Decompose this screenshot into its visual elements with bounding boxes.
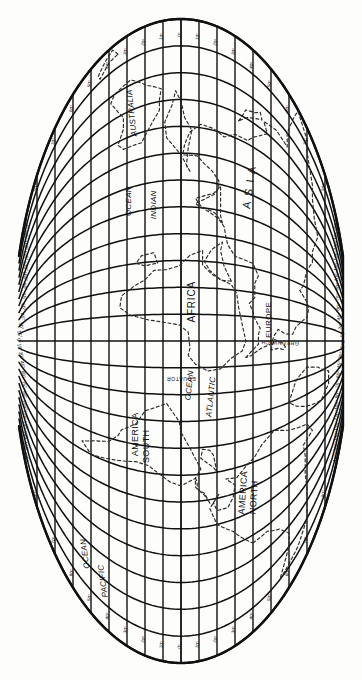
indian-ocean-label-2: OCEAN bbox=[124, 186, 133, 216]
south-america-label-2: AMERICA bbox=[130, 412, 140, 456]
equator-label: EQUATOR bbox=[166, 376, 195, 382]
world-map-figure: 180°180°165°165°150°150°135°135°120°120°… bbox=[0, 0, 362, 680]
indian-ocean-label-1: INDIAN bbox=[149, 190, 158, 219]
europe-label: EUROPE bbox=[264, 302, 273, 338]
map-canvas: 180°180°165°165°150°150°135°135°120°120°… bbox=[0, 0, 362, 680]
south-america-label-1: SOUTH bbox=[141, 430, 151, 464]
africa-label: AFRICA bbox=[186, 281, 197, 322]
